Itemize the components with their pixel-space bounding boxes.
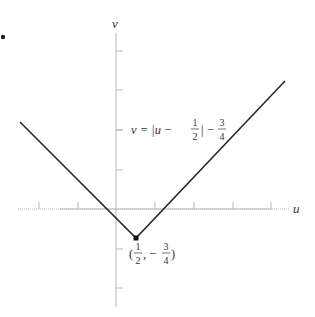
svg-text:4: 4 (164, 255, 169, 266)
svg-text:v = |u −: v = |u − (131, 123, 172, 137)
absolute-value-curve (20, 81, 285, 238)
y-axis-label: v (112, 16, 118, 31)
svg-text:2: 2 (193, 131, 198, 142)
y-ticks (116, 51, 123, 288)
graph: v u v = |u − 1 2 | − 3 4 ( 1 2 , − 3 4 ) (0, 0, 315, 317)
svg-text:1: 1 (136, 241, 141, 252)
equation-label: v = |u − 1 2 | − 3 4 (116, 117, 226, 142)
svg-text:(: ( (129, 247, 133, 261)
x-axis-label: u (293, 201, 300, 216)
svg-text:1: 1 (193, 117, 198, 128)
vertex-label: ( 1 2 , − 3 4 ) (129, 241, 175, 266)
x-ticks (39, 202, 271, 209)
svg-text:3: 3 (220, 117, 225, 128)
svg-text:2: 2 (136, 255, 141, 266)
svg-text:): ) (171, 247, 175, 261)
svg-text:, −: , − (143, 247, 156, 261)
svg-text:3: 3 (164, 241, 169, 252)
bullet-dot (1, 35, 5, 39)
vertex-point (134, 236, 139, 241)
svg-text:| −: | − (201, 123, 214, 137)
svg-text:4: 4 (220, 131, 225, 142)
